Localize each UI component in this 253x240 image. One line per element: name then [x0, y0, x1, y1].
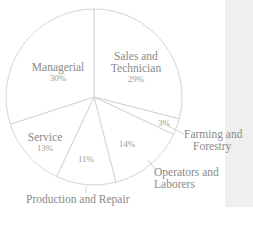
label-operators-name1: Operators and	[154, 166, 219, 178]
label-managerial: Managerial 30%	[22, 61, 94, 84]
label-service-name: Service	[20, 131, 70, 143]
label-sales-name1: Sales and	[100, 50, 172, 62]
label-sales-pct: 29%	[100, 74, 172, 85]
label-operators: Operators and Laborers	[154, 166, 219, 190]
label-managerial-name: Managerial	[22, 61, 94, 73]
label-operators-name2: Laborers	[154, 178, 219, 190]
label-farming-pct: 3%	[155, 118, 173, 129]
label-sales: Sales and Technician 29%	[100, 50, 172, 85]
label-service-pct: 13%	[20, 143, 70, 154]
label-production-pct: 11%	[73, 154, 99, 165]
label-farming-name2: Forestry	[184, 140, 242, 152]
label-sales-name2: Technician	[100, 62, 172, 74]
label-managerial-pct: 30%	[22, 73, 94, 84]
label-production: Production and Repair	[26, 193, 129, 205]
label-operators-pct: 14%	[112, 139, 142, 150]
label-production-name: Production and Repair	[26, 193, 129, 205]
label-farming-name1: Farming and	[184, 128, 242, 140]
label-farming: Farming and Forestry	[184, 128, 242, 152]
label-service: Service 13%	[20, 131, 70, 154]
